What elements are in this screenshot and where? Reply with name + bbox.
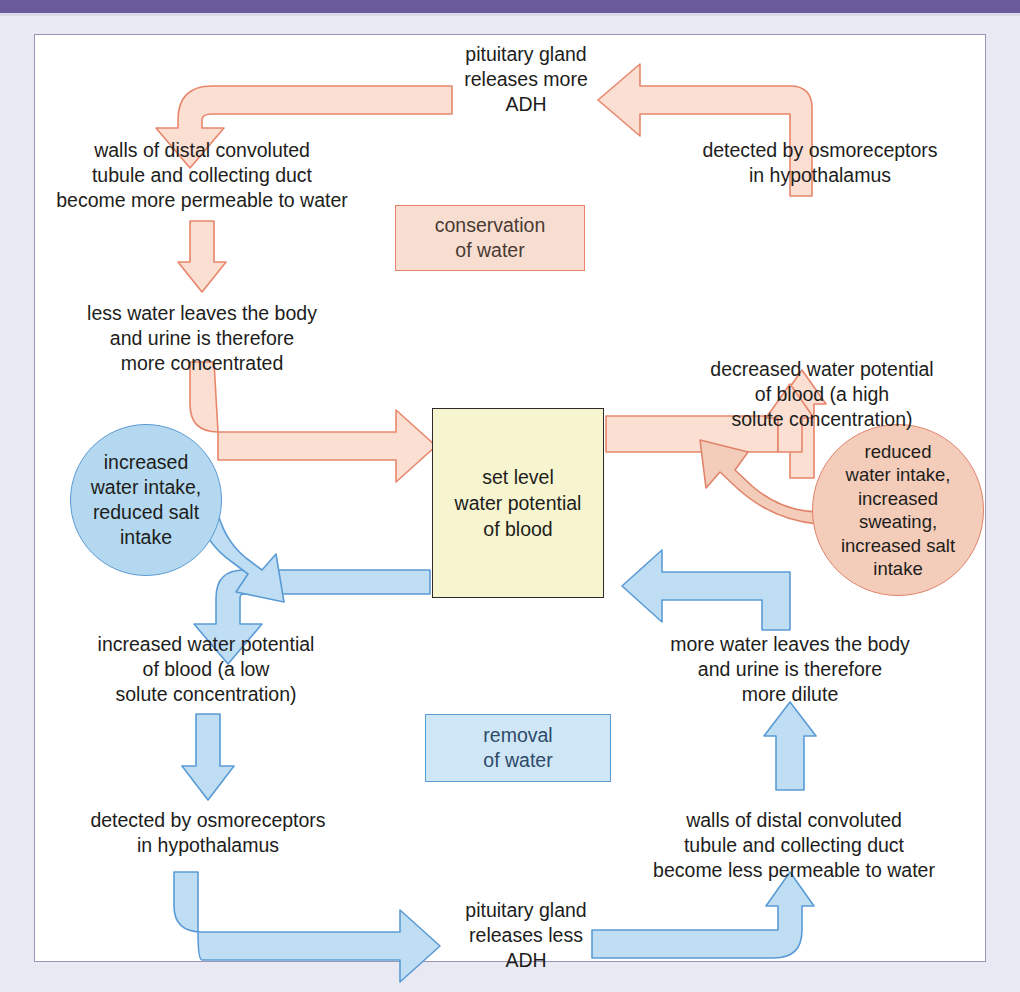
node-detected-osmoreceptors-low: detected by osmoreceptors in hypothalamu…: [38, 808, 378, 858]
legend-removal-of-water: removal of water: [425, 714, 611, 782]
stimulus-circle-increased-water-intake: increased water intake, reduced salt int…: [70, 424, 222, 576]
node-more-water-leaves-body: more water leaves the body and urine is …: [630, 632, 950, 707]
diagram-canvas: set level water potential of blood conse…: [0, 0, 1020, 992]
node-walls-become-less-permeable: walls of distal convoluted tubule and co…: [618, 808, 970, 883]
arrow-diagonal-salmon-circle: [700, 440, 820, 524]
arrow-down-orange-left: [178, 221, 226, 292]
node-pituitary-releases-less-adh: pituitary gland releases less ADH: [428, 898, 624, 973]
node-less-water-leaves-body: less water leaves the body and urine is …: [42, 301, 362, 376]
arrow-elbow-orange-to-center: [190, 362, 436, 482]
node-decreased-water-potential: decreased water potential of blood (a hi…: [662, 357, 982, 432]
center-box-set-level: set level water potential of blood: [432, 408, 604, 598]
arrow-elbow-blue-bottom-right: [592, 872, 814, 958]
arrow-elbow-blue-bottom-left: [174, 872, 440, 982]
legend-conservation-of-water: conservation of water: [395, 205, 585, 271]
stimulus-circle-reduced-water-intake: reduced water intake, increased sweating…: [812, 424, 984, 596]
arrow-down-blue-left: [182, 714, 234, 800]
node-walls-become-more-permeable: walls of distal convoluted tubule and co…: [26, 138, 378, 213]
arrow-left-blue-to-center: [622, 550, 790, 630]
arrow-up-blue-right: [764, 702, 816, 790]
node-pituitary-releases-more-adh: pituitary gland releases more ADH: [428, 42, 624, 117]
node-increased-water-potential: increased water potential of blood (a lo…: [46, 632, 366, 707]
node-detected-osmoreceptors-high: detected by osmoreceptors in hypothalamu…: [650, 138, 990, 188]
